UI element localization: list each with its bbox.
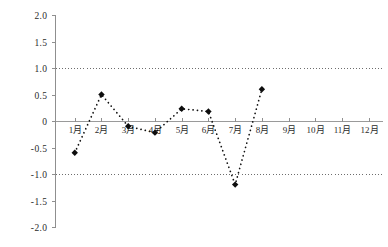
y-axis-tick-label: 0.5 — [34, 91, 47, 101]
y-axis-tick-label: 0 — [42, 117, 47, 127]
y-axis-tick-label: -2.0 — [31, 223, 48, 233]
x-axis-tick-label: 2月 — [95, 125, 109, 135]
y-axis-tick-label: 1.0 — [34, 64, 47, 74]
x-axis-tick-label: 10月 — [307, 125, 325, 135]
x-axis-tick-label: 12月 — [361, 125, 379, 135]
chart-container: 2.01.51.00.50-0.5-1.0-1.5-2.0 1月2月3月4月5月… — [0, 0, 388, 247]
x-axis-tick-label: 1月 — [69, 125, 83, 135]
x-axis-tick-label: 7月 — [229, 125, 243, 135]
x-axis-tick-label: 8月 — [256, 125, 270, 135]
y-axis-tick-label: -0.5 — [31, 144, 48, 154]
x-axis-tick-label: 5月 — [176, 125, 190, 135]
chart-background — [0, 0, 388, 247]
y-axis-tick-label: 2.0 — [34, 11, 47, 21]
scatter-line-chart: 2.01.51.00.50-0.5-1.0-1.5-2.0 1月2月3月4月5月… — [0, 0, 388, 247]
y-axis-tick-label: 1.5 — [34, 38, 47, 48]
x-axis-tick-label: 11月 — [334, 125, 352, 135]
y-axis-tick-label: -1.0 — [31, 170, 48, 180]
x-axis-tick-label: 9月 — [283, 125, 297, 135]
y-axis-tick-label: -1.5 — [31, 197, 48, 207]
